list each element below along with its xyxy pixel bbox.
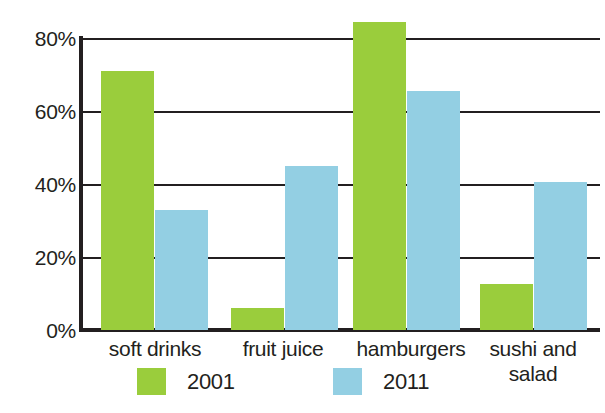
bar-sushi-and-salad-2001[interactable]: [480, 284, 533, 330]
bar-chart: 80% 60% 40% 20% 0%: [0, 0, 605, 413]
legend-swatch-2001-icon: [137, 368, 166, 395]
y-tick-40: 40%: [4, 174, 76, 195]
bar-soft-drinks-2011[interactable]: [155, 210, 208, 330]
bar-sushi-and-salad-2011[interactable]: [534, 182, 587, 330]
bar-group-sushi-and-salad: [480, 38, 588, 330]
legend-label-2001: 2001: [187, 371, 235, 393]
bar-hamburgers-2001[interactable]: [353, 22, 406, 330]
y-tick-0: 0%: [4, 320, 76, 341]
chart-legend: 2001 2011: [0, 368, 605, 408]
bar-hamburgers-2011[interactable]: [407, 91, 460, 330]
y-axis-tick-labels: 80% 60% 40% 20% 0%: [0, 0, 76, 413]
legend-entry-2001[interactable]: 2001: [137, 368, 235, 395]
bar-group-fruit-juice: [231, 38, 339, 330]
plot-area: [83, 38, 600, 330]
bar-fruit-juice-2001[interactable]: [231, 308, 284, 330]
y-tick-60: 60%: [4, 101, 76, 122]
x-label-sushi-and-salad-line1: sushi and: [463, 336, 603, 361]
y-tick-80: 80%: [4, 28, 76, 49]
legend-label-2011: 2011: [383, 371, 429, 393]
legend-entry-2011[interactable]: 2011: [333, 368, 429, 395]
legend-swatch-2011-icon: [333, 368, 362, 395]
y-tick-20: 20%: [4, 247, 76, 268]
bar-soft-drinks-2001[interactable]: [101, 71, 154, 330]
bar-group-hamburgers: [353, 38, 461, 330]
bar-group-soft-drinks: [101, 38, 209, 330]
bar-fruit-juice-2011[interactable]: [285, 166, 338, 330]
